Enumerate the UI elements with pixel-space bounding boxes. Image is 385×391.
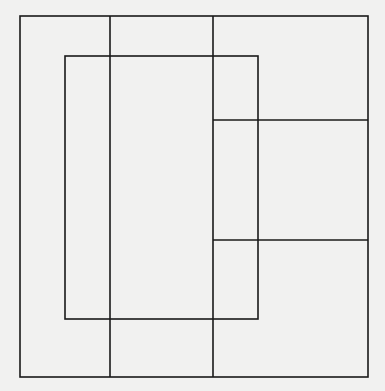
outer-rectangle (20, 16, 368, 377)
diagram-canvas (0, 0, 385, 391)
inner-rectangle (65, 56, 258, 319)
rectangles-diagram (0, 0, 385, 391)
